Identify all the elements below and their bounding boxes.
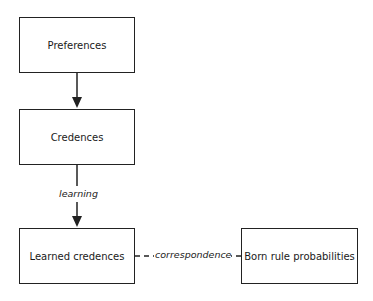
node-born-rule-probabilities: Born rule probabilities — [241, 228, 358, 284]
node-label: Credences — [51, 132, 104, 143]
node-credences: Credences — [19, 109, 135, 165]
arrowhead-icon — [72, 97, 82, 108]
arrowhead-icon — [72, 216, 82, 227]
node-label: Learned credences — [30, 251, 125, 262]
node-label: Born rule probabilities — [244, 251, 355, 262]
edge-label-learning: learning — [59, 188, 98, 199]
edge-label-correspondence: correspondence — [155, 249, 231, 260]
node-preferences: Preferences — [19, 17, 135, 73]
node-learned-credences: Learned credences — [19, 228, 135, 284]
node-label: Preferences — [48, 40, 107, 51]
